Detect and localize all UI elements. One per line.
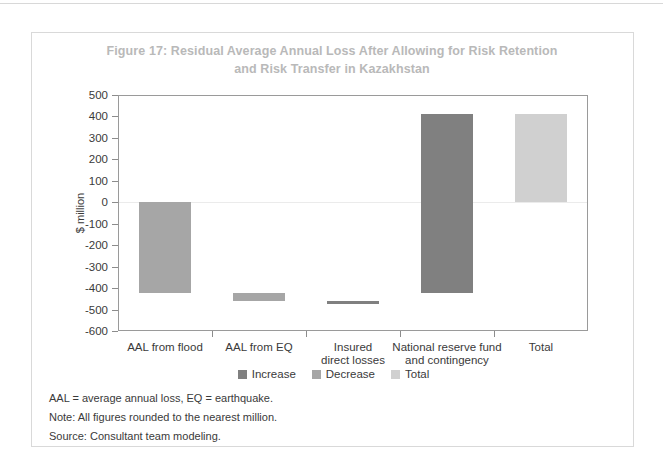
y-axis-tick [112, 138, 118, 139]
x-axis-tick [400, 331, 401, 337]
y-axis-tick-label: 100 [89, 175, 108, 187]
y-axis-tick [112, 267, 118, 268]
legend-label: Increase [252, 368, 296, 380]
figure-card: Figure 17: Residual Average Annual Loss … [31, 32, 634, 447]
y-axis-tick-label: -300 [85, 261, 108, 273]
chart-bar [421, 114, 473, 293]
chart-bar [139, 202, 191, 293]
figure-notes: AAL = average annual loss, EQ = earthqua… [49, 389, 609, 446]
chart-bar [327, 301, 379, 304]
figure-title-line-2: and Risk Transfer in Kazakhstan [72, 60, 592, 78]
legend-swatch [391, 370, 400, 379]
figure-title: Figure 17: Residual Average Annual Loss … [72, 42, 592, 78]
note-abbreviations: AAL = average annual loss, EQ = earthqua… [49, 389, 609, 408]
x-axis-category-label: Total [486, 341, 596, 354]
note-source: Source: Consultant team modeling. [49, 427, 609, 446]
x-axis-label-line-1: Total [486, 341, 596, 354]
y-axis-tick-label: 400 [89, 110, 108, 122]
y-axis-tick [112, 116, 118, 117]
y-axis-tick-label: 500 [89, 89, 108, 101]
y-axis-tick-label: -600 [85, 325, 108, 337]
y-axis-tick [112, 331, 118, 332]
legend-label: Decrease [326, 368, 375, 380]
y-axis-tick [112, 288, 118, 289]
legend-item: Increase [238, 368, 296, 380]
x-axis-tick [306, 331, 307, 337]
y-axis-tick [112, 245, 118, 246]
y-axis-tick-label: -100 [85, 218, 108, 230]
legend-swatch [238, 370, 247, 379]
chart-legend: IncreaseDecreaseTotal [32, 368, 635, 380]
y-axis-tick-label: 300 [89, 132, 108, 144]
x-axis-label-line-2: and contingency [392, 354, 502, 367]
y-axis-tick-label: -200 [85, 239, 108, 251]
note-rounding: Note: All figures rounded to the nearest… [49, 408, 609, 427]
figure-title-line-1: Figure 17: Residual Average Annual Loss … [72, 42, 592, 60]
legend-swatch [312, 370, 321, 379]
y-axis-tick [112, 310, 118, 311]
y-axis-tick-label: 0 [102, 196, 108, 208]
y-axis-tick-label: -500 [85, 304, 108, 316]
y-axis-tick [112, 224, 118, 225]
page-top-rule [0, 3, 663, 4]
chart-bar [515, 114, 567, 202]
chart-bar [233, 293, 285, 301]
y-axis-tick [112, 202, 118, 203]
legend-label: Total [405, 368, 429, 380]
y-axis-tick [112, 95, 118, 96]
y-axis-tick [112, 181, 118, 182]
y-axis-tick-label: 200 [89, 153, 108, 165]
legend-item: Total [391, 368, 429, 380]
x-axis-tick [494, 331, 495, 337]
legend-item: Decrease [312, 368, 375, 380]
y-axis-tick-label: -400 [85, 282, 108, 294]
chart-plot-area: $ million 5004003002001000-100-200-300-4… [118, 95, 588, 331]
x-axis-tick [212, 331, 213, 337]
y-axis-tick [112, 159, 118, 160]
